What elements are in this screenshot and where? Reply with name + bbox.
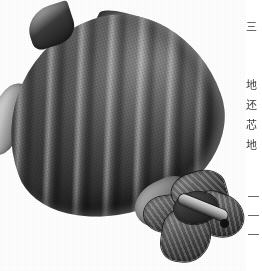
cropped-stroke-mark <box>248 215 259 216</box>
vertical-text-char: 地 <box>246 140 262 151</box>
illustration-plate <box>0 0 246 271</box>
flower-bud-figure <box>0 4 246 254</box>
vertical-text-char: 地 <box>246 80 262 91</box>
cropped-stroke-mark <box>248 234 259 235</box>
vertical-text-char: 芯 <box>246 120 262 131</box>
vertical-text-char: 三 <box>246 22 262 33</box>
page-root: 三 地 还 芯 地 <box>0 0 262 271</box>
vertical-text-char: 还 <box>246 100 262 111</box>
cropped-stroke-mark <box>248 196 259 197</box>
vertical-text-column: 三 地 还 芯 地 <box>246 0 262 271</box>
stem-cut-end <box>220 219 229 228</box>
